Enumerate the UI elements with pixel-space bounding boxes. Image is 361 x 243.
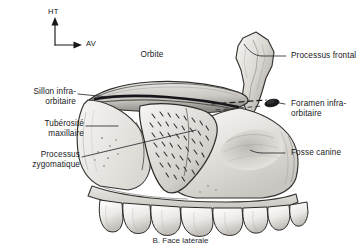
label-processus-frontal: Processus frontal (291, 51, 361, 61)
orientation-forward-label: AV (86, 40, 96, 49)
label-fosse-canine: Fosse canine (291, 148, 361, 158)
figure-caption: B. Face latérale (0, 236, 361, 243)
label-processus-zygomatique: Processus zygomatique (4, 150, 80, 171)
tooth (290, 202, 308, 226)
label-tuberosite-maxillaire: Tubérosité maxillaire (10, 119, 84, 140)
tooth (123, 203, 151, 233)
orientation-axes (52, 17, 83, 49)
maxilla-bone-drawing (77, 32, 308, 236)
leader-foramen (279, 103, 285, 104)
orientation-up-label: HT (48, 8, 59, 17)
tooth (268, 205, 290, 230)
tooth (151, 205, 181, 235)
figure-canvas: HT AV Orbite Sillon infra- orbitaire Tub… (0, 0, 361, 243)
label-sillon-infra-orbitaire: Sillon infra- orbitaire (2, 87, 76, 108)
label-orbite: Orbite (124, 50, 180, 60)
label-foramen-infra-orbitaire: Foramen infra- orbitaire (291, 99, 361, 120)
tooth (99, 200, 123, 232)
